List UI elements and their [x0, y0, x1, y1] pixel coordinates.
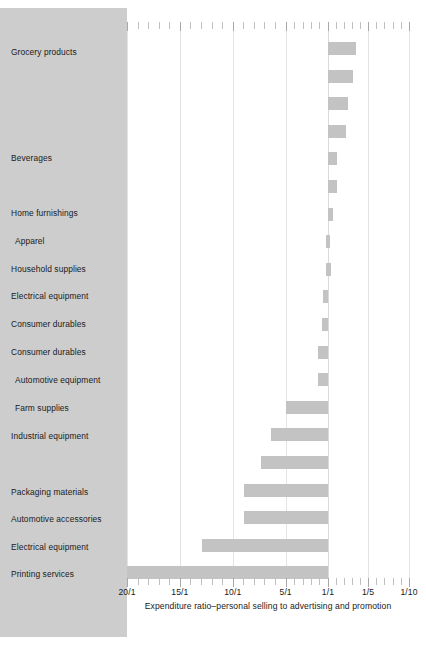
axis-tick-major	[180, 22, 181, 31]
plot-inner	[127, 22, 409, 585]
plot-area	[127, 22, 409, 585]
axis-tick-major	[368, 578, 369, 587]
axis-tick-minor	[264, 578, 265, 585]
axis-ticks-top	[127, 22, 409, 31]
axis-tick-minor	[360, 22, 361, 29]
category-label: Beverages	[11, 153, 52, 164]
axis-tick-minor	[352, 22, 353, 29]
axis-tick-minor	[212, 22, 213, 29]
axis-tick-minor	[222, 578, 223, 585]
bar	[271, 428, 328, 441]
axis-tick-minor	[376, 578, 377, 585]
axis-tick-minor	[360, 578, 361, 585]
axis-tick-minor	[201, 578, 202, 585]
axis-tick-minor	[344, 578, 345, 585]
category-label: Electrical equipment	[11, 291, 88, 302]
bar	[323, 290, 328, 303]
axis-tick-minor	[212, 578, 213, 585]
x-tick-label: 20/1	[118, 587, 135, 597]
axis-tick-minor	[222, 22, 223, 29]
axis-tick-major	[328, 22, 329, 31]
axis-tick-minor	[311, 22, 312, 29]
axis-tick-minor	[275, 22, 276, 29]
axis-tick-minor	[344, 22, 345, 29]
axis-tick-major	[127, 578, 128, 587]
axis-tick-minor	[264, 22, 265, 29]
bar	[328, 42, 356, 55]
gridline	[368, 22, 369, 585]
bar	[322, 318, 328, 331]
axis-tick-minor	[393, 578, 394, 585]
axis-tick-minor	[376, 22, 377, 29]
category-label: Packaging materials	[11, 487, 88, 498]
category-label: Printing services	[11, 569, 74, 580]
x-tick-label: 1/5	[362, 587, 374, 597]
axis-tick-minor	[243, 22, 244, 29]
axis-tick-minor	[138, 578, 139, 585]
bar	[202, 539, 328, 552]
axis-tick-minor	[401, 22, 402, 29]
axis-tick-major	[233, 578, 234, 587]
axis-tick-minor	[352, 578, 353, 585]
bar	[261, 456, 328, 469]
bar	[328, 208, 333, 221]
axis-tick-minor	[336, 578, 337, 585]
axis-tick-major	[409, 578, 410, 587]
axis-tick-major	[233, 22, 234, 31]
bar	[328, 125, 346, 138]
axis-tick-minor	[294, 578, 295, 585]
category-label: Consumer durables	[11, 319, 86, 330]
axis-tick-minor	[384, 578, 385, 585]
category-label: Grocery products	[11, 47, 77, 58]
axis-tick-minor	[159, 578, 160, 585]
category-label: Electrical equipment	[11, 542, 88, 553]
bar	[328, 180, 337, 193]
bar	[286, 401, 328, 414]
axis-tick-major	[286, 578, 287, 587]
axis-tick-minor	[243, 578, 244, 585]
bar	[328, 70, 353, 83]
figure-bottom-margin	[0, 637, 426, 646]
gridline	[286, 22, 287, 585]
gridline	[409, 22, 410, 585]
category-label: Home furnishings	[11, 208, 78, 219]
axis-tick-minor	[319, 22, 320, 29]
category-label: Consumer durables	[11, 347, 86, 358]
axis-tick-minor	[311, 578, 312, 585]
axis-tick-minor	[384, 22, 385, 29]
axis-tick-minor	[275, 578, 276, 585]
x-tick-label: 10/1	[224, 587, 241, 597]
bar	[318, 346, 328, 359]
bar	[326, 235, 330, 248]
axis-tick-major	[409, 22, 410, 31]
axis-tick-minor	[336, 22, 337, 29]
axis-tick-minor	[169, 22, 170, 29]
category-label: Farm supplies	[15, 403, 69, 414]
axis-tick-minor	[393, 22, 394, 29]
gridline	[127, 22, 128, 585]
axis-tick-minor	[169, 578, 170, 585]
axis-tick-major	[368, 22, 369, 31]
category-label: Industrial equipment	[11, 431, 88, 442]
gridline	[180, 22, 181, 585]
bar	[244, 511, 328, 524]
axis-tick-minor	[148, 22, 149, 29]
axis-tick-minor	[294, 22, 295, 29]
gridline	[233, 22, 234, 585]
x-tick-label: 5/1	[280, 587, 292, 597]
category-label: Automotive accessories	[11, 514, 102, 525]
bar	[244, 484, 328, 497]
chart-figure: Grocery productsBeveragesHome furnishing…	[0, 0, 426, 646]
bar	[326, 263, 331, 276]
axis-tick-minor	[303, 578, 304, 585]
bar	[318, 373, 328, 386]
axis-tick-minor	[148, 578, 149, 585]
x-tick-label: 1/10	[400, 587, 417, 597]
axis-tick-minor	[401, 578, 402, 585]
axis-tick-major	[328, 578, 329, 587]
axis-tick-minor	[254, 578, 255, 585]
bar	[328, 152, 337, 165]
axis-tick-minor	[138, 22, 139, 29]
x-tick-label: 1/1	[322, 587, 334, 597]
category-label: Household supplies	[11, 264, 86, 275]
